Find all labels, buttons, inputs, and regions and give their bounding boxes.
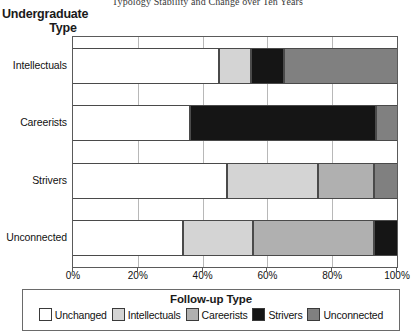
- bar-segment-unchanged[interactable]: [73, 105, 190, 141]
- legend-item-careerists[interactable]: Careerists: [186, 308, 248, 321]
- y-axis-title-line2: Type: [2, 22, 124, 36]
- bar-segment-unchanged[interactable]: [73, 220, 183, 256]
- y-axis-title-line1: Undergraduate: [2, 8, 124, 22]
- bar-segment-intellectuals[interactable]: [227, 163, 318, 199]
- legend-swatch-icon: [252, 308, 265, 321]
- category-axis-labels: IntellectualsCareeristsStriversUnconnect…: [0, 36, 72, 268]
- bar-segment-strivers[interactable]: [251, 48, 283, 84]
- legend-swatch-icon: [186, 308, 199, 321]
- legend-label: Unchanged: [55, 309, 107, 321]
- legend-swatch-icon: [39, 308, 52, 321]
- bar-segment-intellectuals[interactable]: [183, 220, 253, 256]
- x-tick-mark: [137, 268, 138, 272]
- x-tick-label: 0%: [53, 270, 93, 281]
- category-label-strivers: Strivers: [2, 174, 72, 186]
- x-tick-mark: [72, 268, 73, 272]
- bar-segment-strivers[interactable]: [374, 220, 397, 256]
- x-axis-tick-labels: 0%20%40%60%80%100%: [72, 270, 398, 284]
- bar-row[interactable]: [73, 105, 397, 141]
- x-tick-mark: [331, 268, 332, 272]
- legend-item-unconnected[interactable]: Unconnected: [307, 308, 383, 321]
- legend-label: Careerists: [202, 309, 248, 321]
- bar-segment-unconnected[interactable]: [284, 48, 397, 84]
- legend-item-intellectuals[interactable]: Intellectuals: [112, 308, 181, 321]
- legend-item-unchanged[interactable]: Unchanged: [39, 308, 107, 321]
- category-label-careerists: Careerists: [2, 116, 72, 128]
- bar-row[interactable]: [73, 220, 397, 256]
- bar-segment-unconnected[interactable]: [376, 105, 397, 141]
- legend-item-strivers[interactable]: Strivers: [252, 308, 302, 321]
- x-tick-mark: [202, 268, 203, 272]
- legend: Follow-up Type UnchangedIntellectualsCar…: [22, 289, 400, 331]
- legend-swatch-icon: [112, 308, 125, 321]
- bar-segment-careerists[interactable]: [318, 163, 375, 199]
- category-label-intellectuals: Intellectuals: [2, 59, 72, 71]
- chart-title: Typology Stability and Change over Ten Y…: [0, 0, 415, 7]
- x-tick-label: 40%: [183, 270, 223, 281]
- bar-row[interactable]: [73, 48, 397, 84]
- legend-label: Strivers: [268, 309, 302, 321]
- y-axis-title: Undergraduate Type: [2, 8, 124, 35]
- bar-row[interactable]: [73, 163, 397, 199]
- x-tick-label: 80%: [312, 270, 352, 281]
- legend-title: Follow-up Type: [23, 293, 399, 305]
- legend-label: Intellectuals: [128, 309, 181, 321]
- bar-segment-strivers[interactable]: [190, 105, 376, 141]
- bar-segment-intellectuals[interactable]: [219, 48, 251, 84]
- legend-swatch-icon: [307, 308, 320, 321]
- plot-area: [72, 36, 398, 268]
- x-tick-label: 60%: [247, 270, 287, 281]
- category-label-unconnected: Unconnected: [2, 231, 72, 243]
- bar-segment-unchanged[interactable]: [73, 163, 227, 199]
- legend-items: UnchangedIntellectualsCareeristsStrivers…: [23, 308, 399, 321]
- x-tick-mark: [266, 268, 267, 272]
- legend-label: Unconnected: [323, 309, 383, 321]
- x-tick-label: 20%: [118, 270, 158, 281]
- bar-segment-unchanged[interactable]: [73, 48, 219, 84]
- bar-segment-careerists[interactable]: [253, 220, 375, 256]
- bar-segment-unconnected[interactable]: [374, 163, 397, 199]
- x-tick-mark: [396, 268, 397, 272]
